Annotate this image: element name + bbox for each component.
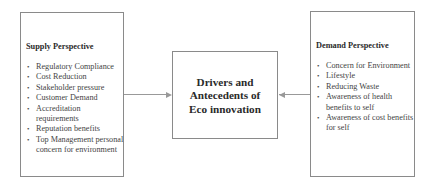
list-item: Cost Reduction <box>26 72 124 82</box>
central-title-line-1: Drivers and <box>189 76 261 90</box>
demand-perspective-list: Concern for Environment Lifestyle Reduci… <box>316 61 414 134</box>
central-concept-title: Drivers and Antecedents of Eco innovatio… <box>189 76 261 117</box>
central-title-line-3: Eco innovation <box>189 103 261 117</box>
list-item: Regulatory Compliance <box>26 62 124 72</box>
central-concept-box: Drivers and Antecedents of Eco innovatio… <box>172 51 278 139</box>
list-item: Stakeholder pressure <box>26 83 124 93</box>
supply-perspective-list: Regulatory Compliance Cost Reduction Sta… <box>26 62 124 156</box>
list-item: Customer Demand <box>26 93 124 103</box>
central-title-line-2: Antecedents of <box>189 89 261 103</box>
list-item: Concern for Environment <box>316 61 414 71</box>
supply-to-center-arrow-line <box>124 94 170 95</box>
arrow-left-icon <box>279 92 285 98</box>
list-item: Awareness of cost benefits for self <box>316 113 414 134</box>
list-item: Reducing Waste <box>316 82 414 92</box>
supply-perspective-title: Supply Perspective <box>26 42 94 51</box>
list-item: Lifestyle <box>316 71 414 81</box>
demand-perspective-box: Demand Perspective Concern for Environme… <box>310 11 415 177</box>
list-item: Top Management personal concern for envi… <box>26 135 124 156</box>
list-item: Accreditation requirements <box>26 104 124 125</box>
list-item: Reputation benefits <box>26 124 124 134</box>
supply-perspective-box: Supply Perspective Regulatory Compliance… <box>20 12 124 177</box>
list-item: Awareness of health benefits to self <box>316 92 414 113</box>
demand-perspective-title: Demand Perspective <box>316 41 389 50</box>
